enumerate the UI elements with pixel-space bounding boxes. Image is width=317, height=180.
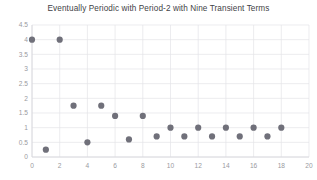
scatter-plot-svg: 00.511.522.533.544.5 02468101214161820 [0, 0, 317, 180]
x-tick-label: 14 [222, 162, 230, 169]
data-point [57, 37, 63, 43]
y-tick-label: 0 [24, 153, 28, 160]
y-tick-label: 4 [24, 36, 28, 43]
x-tick-label: 4 [86, 162, 90, 169]
x-tick-label: 8 [141, 162, 145, 169]
chart-container: Eventually Periodic with Period-2 with N… [0, 0, 317, 180]
y-tick-label: 2 [24, 95, 28, 102]
data-point [84, 139, 90, 145]
data-point [209, 133, 215, 139]
y-tick-label: 1 [24, 124, 28, 131]
x-tick-label: 0 [30, 162, 34, 169]
data-point [195, 125, 201, 131]
data-point [181, 133, 187, 139]
x-tick-label: 16 [250, 162, 258, 169]
y-tick-label: 3 [24, 65, 28, 72]
x-tick-label: 6 [113, 162, 117, 169]
y-tick-label: 0.5 [19, 139, 28, 146]
x-tick-label: 2 [58, 162, 62, 169]
data-point [112, 113, 118, 119]
y-tick-labels: 00.511.522.533.544.5 [19, 21, 29, 160]
data-point [264, 133, 270, 139]
x-tick-label: 12 [195, 162, 203, 169]
data-point [251, 125, 257, 131]
data-point [29, 37, 35, 43]
data-point [167, 125, 173, 131]
x-tick-label: 18 [278, 162, 286, 169]
data-point [70, 103, 76, 109]
data-point [140, 113, 146, 119]
data-point [223, 125, 229, 131]
x-tick-label: 20 [305, 162, 313, 169]
x-tick-label: 10 [167, 162, 175, 169]
plot-area: 00.511.522.533.544.5 02468101214161820 [0, 0, 317, 180]
data-point [43, 147, 49, 153]
x-tick-labels: 02468101214161820 [30, 162, 313, 169]
data-point [237, 133, 243, 139]
data-point [154, 133, 160, 139]
data-point [278, 125, 284, 131]
y-tick-label: 1.5 [19, 109, 28, 116]
y-tick-label: 4.5 [19, 21, 28, 28]
data-point [126, 136, 132, 142]
y-tick-label: 2.5 [19, 80, 28, 87]
y-tick-label: 3.5 [19, 51, 28, 58]
data-point [98, 103, 104, 109]
